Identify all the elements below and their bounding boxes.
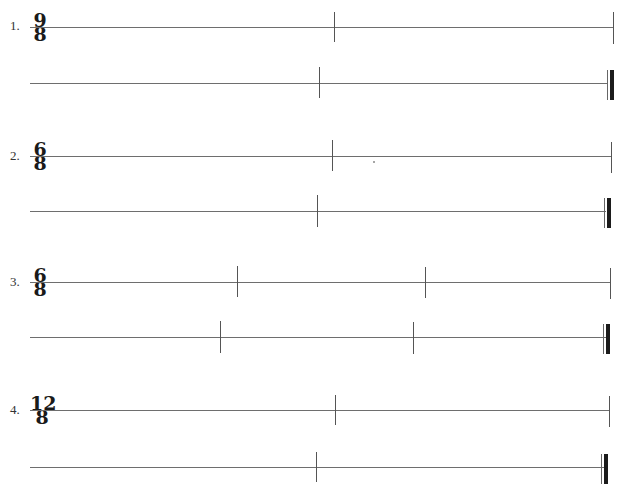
final-barline-thick (607, 198, 611, 228)
page-header-fragment-center (300, 0, 420, 2)
final-barline-thin (601, 454, 602, 484)
barline (220, 321, 221, 353)
barline (609, 396, 610, 427)
rhythm-staff-line (30, 337, 606, 338)
barline (334, 12, 335, 42)
time-signature-bottom: 8 (31, 27, 49, 41)
final-barline-thick (606, 324, 610, 354)
barline (413, 322, 414, 354)
barline (316, 452, 317, 482)
page-header-fragment-left (60, 0, 190, 2)
paper-speck (373, 161, 375, 163)
barline (610, 268, 611, 299)
barline (425, 267, 426, 298)
exercise-number: 4. (10, 402, 20, 418)
final-barline-thin (603, 324, 604, 354)
barline (237, 266, 238, 297)
barline (611, 142, 612, 173)
exercise-number: 1. (10, 18, 20, 34)
rhythm-staff-line (30, 467, 604, 468)
exercise-number: 3. (10, 274, 20, 290)
time-signature-bottom: 8 (31, 282, 49, 296)
final-barline-thick (604, 454, 608, 484)
rhythm-staff-line (30, 156, 611, 157)
barline (335, 395, 336, 425)
final-barline-thick (610, 70, 614, 100)
rhythm-staff-line (30, 282, 611, 283)
exercise-number: 2. (10, 148, 20, 164)
final-barline-thin (607, 70, 608, 100)
time-signature-bottom: 8 (31, 156, 49, 170)
barline (332, 140, 333, 171)
barline (613, 12, 614, 44)
rhythm-staff-line (30, 410, 610, 411)
barline (317, 195, 318, 227)
final-barline-thin (604, 198, 605, 228)
rhythm-staff-line (30, 27, 613, 28)
barline (319, 67, 320, 98)
rhythm-staff-line (30, 211, 606, 212)
